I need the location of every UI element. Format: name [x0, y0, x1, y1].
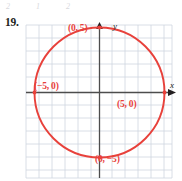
problem-number: 19. — [5, 17, 19, 29]
y-axis-label: y — [113, 22, 117, 31]
point-top — [98, 26, 102, 30]
coordinate-plane: (0, 5) (−5, 0) (5, 0) (0, −5) y x — [24, 22, 182, 181]
exercise-figure: 2 1 2 19. — [0, 0, 182, 181]
page-bleed-text: 2 1 2 — [0, 0, 182, 13]
point-label-bottom: (0, −5) — [95, 155, 120, 165]
point-right — [163, 91, 167, 95]
x-axis-label: x — [170, 81, 174, 90]
point-label-left: (−5, 0) — [34, 82, 59, 92]
point-label-top: (0, 5) — [68, 24, 87, 34]
point-label-right: (5, 0) — [117, 100, 136, 110]
